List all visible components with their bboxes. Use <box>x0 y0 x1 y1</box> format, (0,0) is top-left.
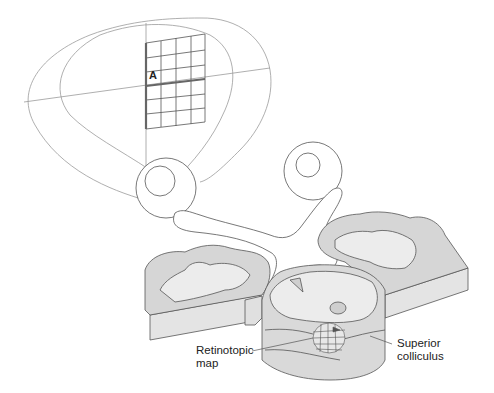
superior-colliculus-label: Superior colliculus <box>397 337 444 363</box>
midbrain-block <box>262 265 385 380</box>
visual-pathway-diagram <box>0 0 494 393</box>
retinotopic-map-label-line1: Retinotopic <box>196 344 254 357</box>
superior-colliculus-label-line1: Superior <box>397 337 444 350</box>
retinotopic-map-label-line2: map <box>196 357 254 370</box>
retinotopic-map-label: Retinotopic map <box>196 344 254 370</box>
retinotopic-map-grid <box>313 323 345 353</box>
left-brain-slice <box>145 245 270 340</box>
grid-point-label: A <box>149 69 157 81</box>
left-eye <box>136 158 196 218</box>
superior-colliculus-label-line2: colliculus <box>397 350 444 363</box>
